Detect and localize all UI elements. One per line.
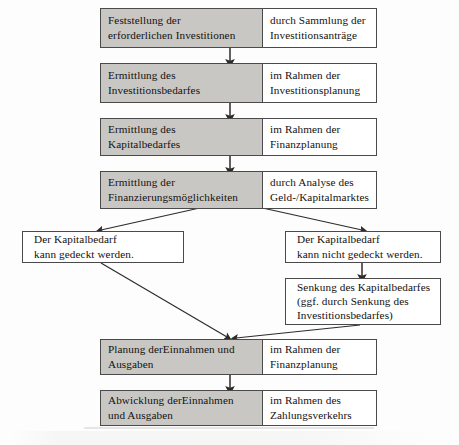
node-step4-context: durch Analyse des Geld-/Kapitalmarktes (262, 171, 377, 209)
node-step5[interactable]: Planung derEinnahmen und Ausgaben im Rah… (100, 339, 377, 375)
node-step2-action: Ermittlung des Investitionsbedarfes (100, 63, 262, 103)
node-step6-context: im Rahmen des Zahlungsverkehrs (262, 390, 377, 426)
node-step1-context-text: durch Sammlung der Investitionsanträge (270, 13, 366, 42)
node-step3-context: im Rahmen der Finanzplanung (262, 118, 377, 156)
node-step5-action: Planung derEinnahmen und Ausgaben (100, 339, 262, 375)
node-branch-yes[interactable]: Der Kapitalbedarf kann gedeckt werden. (22, 231, 184, 263)
edge-branch-yes-step5 (101, 263, 227, 337)
node-step4-action: Ermittlung der Finanzierungsmöglichkeite… (100, 171, 262, 209)
node-step4-action-text: Ermittlung der Finanzierungsmöglichkeite… (108, 175, 238, 204)
node-step3[interactable]: Ermittlung des Kapitalbedarfes im Rahmen… (100, 118, 377, 156)
node-step2-context-text: im Rahmen der Investitionsplanung (270, 68, 360, 97)
node-step5-context: im Rahmen der Finanzplanung (262, 339, 377, 375)
node-step4[interactable]: Ermittlung der Finanzierungsmöglichkeite… (100, 171, 377, 209)
node-step2-action-text: Ermittlung des Investitionsbedarfes (108, 68, 200, 97)
flowchart-canvas: Feststellung der erforderlichen Investit… (0, 0, 459, 445)
node-step1-action-text: Feststellung der erforderlichen Investit… (108, 13, 235, 42)
node-branch-no-text: Der Kapitalbedarf kann nicht gedeckt wer… (297, 232, 423, 261)
node-branch-no[interactable]: Der Kapitalbedarf kann nicht gedeckt wer… (285, 231, 441, 263)
node-step2[interactable]: Ermittlung des Investitionsbedarfes im R… (100, 63, 377, 103)
node-step1-action: Feststellung der erforderlichen Investit… (100, 8, 262, 48)
node-step6-action: Abwicklung derEinnahmen und Ausgaben (100, 390, 262, 426)
node-step6[interactable]: Abwicklung derEinnahmen und Ausgaben im … (100, 390, 377, 426)
node-reduction-text: Senkung des Kapitalbedarfes (ggf. durch … (297, 280, 430, 323)
node-branch-yes-text: Der Kapitalbedarf kann gedeckt werden. (34, 232, 134, 261)
node-step4-context-text: durch Analyse des Geld-/Kapitalmarktes (270, 175, 369, 204)
edge-reduction-step5 (236, 325, 360, 338)
node-step1[interactable]: Feststellung der erforderlichen Investit… (100, 8, 377, 48)
node-step6-context-text: im Rahmen des Zahlungsverkehrs (270, 393, 352, 422)
node-step6-action-text: Abwicklung derEinnahmen und Ausgaben (108, 393, 234, 422)
node-step5-action-text: Planung derEinnahmen und Ausgaben (108, 342, 235, 371)
node-step2-context: im Rahmen der Investitionsplanung (262, 63, 377, 103)
node-step3-action: Ermittlung des Kapitalbedarfes (100, 118, 262, 156)
node-step3-context-text: im Rahmen der Finanzplanung (270, 122, 340, 151)
node-step1-context: durch Sammlung der Investitionsanträge (262, 8, 377, 48)
node-step5-context-text: im Rahmen der Finanzplanung (270, 342, 340, 371)
node-step3-action-text: Ermittlung des Kapitalbedarfes (108, 122, 180, 151)
node-reduction[interactable]: Senkung des Kapitalbedarfes (ggf. durch … (285, 278, 441, 325)
